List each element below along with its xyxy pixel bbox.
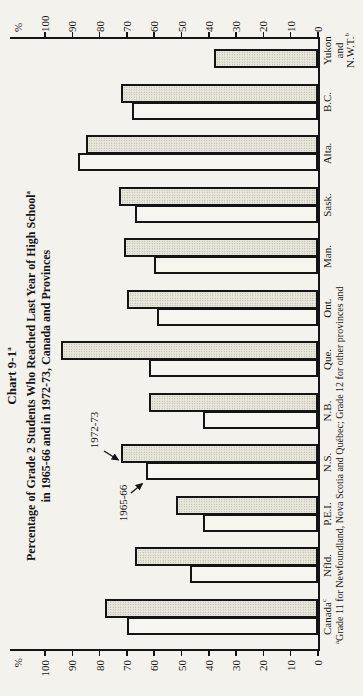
y-tick-right-40 — [208, 32, 210, 37]
chart-title-line1: Percentage of Grade 2 Students Who Reach… — [24, 116, 39, 636]
category-label-line: Yukon — [322, 11, 334, 91]
y-axis-left-unit-label: % — [12, 658, 24, 682]
y-tick-right-10 — [290, 32, 292, 37]
y-tick-right-50 — [181, 32, 183, 37]
y-tick-label-left-10: 10 — [285, 660, 297, 690]
bar-1965-66-5 — [149, 360, 318, 378]
y-tick-label-right-90: 90 — [66, 2, 78, 32]
bar-1972-73-6 — [127, 290, 318, 309]
chart-number: Chart 9-1a — [4, 116, 20, 636]
chart-number-sup: a — [5, 347, 13, 351]
y-tick-label-right-60: 60 — [148, 2, 160, 32]
chart-number-text: Chart 9-1 — [4, 351, 19, 405]
page: { "chart_data": { "type": "bar", "title"… — [0, 0, 363, 696]
bar-1972-73-1 — [135, 548, 318, 567]
y-tick-right-20 — [263, 32, 265, 37]
category-label-11: YukonandN.W.T.b — [322, 11, 357, 91]
y-tick-label-left-90: 90 — [66, 660, 78, 690]
footnote: aGrade 11 for Newfoundland, Nova Scotia … — [334, 104, 346, 644]
y-tick-label-right-20: 20 — [257, 2, 269, 32]
y-axis-left — [10, 649, 320, 651]
bar-1972-73-8 — [119, 187, 318, 206]
y-tick-label-right-70: 70 — [121, 2, 133, 32]
y-axis-right — [10, 37, 320, 39]
annotation-label-1972-73: 1972-73 — [88, 399, 100, 461]
y-tick-left-60 — [153, 651, 155, 656]
y-tick-label-right-80: 80 — [94, 2, 106, 32]
bar-1972-73-3 — [121, 445, 318, 464]
footnote-sup: a — [333, 641, 341, 644]
bar-1972-73-5 — [61, 342, 318, 361]
y-tick-label-right-50: 50 — [176, 2, 188, 32]
bar-1972-73-4 — [149, 393, 318, 412]
x-axis-baseline — [318, 37, 320, 651]
chart-title-line1-text: Percentage of Grade 2 Students Who Reach… — [24, 194, 38, 561]
y-tick-label-right-30: 30 — [230, 2, 242, 32]
y-tick-label-right-100: 100 — [39, 2, 51, 32]
annotation-label-1965-66: 1965-66 — [117, 472, 129, 534]
y-tick-left-20 — [263, 651, 265, 656]
bar-1965-66-3 — [146, 463, 318, 481]
y-tick-right-60 — [153, 32, 155, 37]
y-tick-label-left-80: 80 — [94, 660, 106, 690]
category-label-line: N.W.T.b — [345, 11, 357, 91]
y-tick-left-30 — [235, 651, 237, 656]
y-tick-left-100 — [44, 651, 46, 656]
bar-1965-66-7 — [154, 257, 318, 275]
y-tick-right-70 — [126, 32, 128, 37]
bar-1965-66-1 — [190, 566, 318, 584]
y-tick-label-left-30: 30 — [230, 660, 242, 690]
bar-1972-73-7 — [124, 239, 318, 258]
y-tick-left-40 — [208, 651, 210, 656]
y-tick-label-left-100: 100 — [39, 660, 51, 690]
bar-1965-66-8 — [135, 205, 318, 223]
y-tick-left-70 — [126, 651, 128, 656]
y-tick-right-90 — [72, 32, 74, 37]
footnote-text: Grade 11 for Newfoundland, Nova Scotia a… — [334, 286, 345, 641]
bar-1972-73-10 — [121, 84, 318, 103]
y-tick-label-left-60: 60 — [148, 660, 160, 690]
bar-1972-73-0 — [105, 599, 318, 618]
y-axis-right-unit-label: % — [12, 23, 24, 32]
y-tick-label-left-70: 70 — [121, 660, 133, 690]
bar-1972-73-9 — [86, 136, 318, 155]
y-tick-left-0 — [317, 651, 319, 656]
y-tick-label-right-40: 40 — [203, 2, 215, 32]
y-tick-right-0 — [317, 32, 319, 37]
bar-1965-66-6 — [157, 308, 318, 326]
y-tick-right-30 — [235, 32, 237, 37]
y-tick-label-left-0: 0 — [312, 660, 324, 690]
chart-title-block: Chart 9-1a Percentage of Grade 2 Student… — [4, 116, 54, 636]
bar-1972-73-2 — [176, 496, 318, 515]
arrow-1965-66 — [131, 484, 143, 494]
bar-1965-66-9 — [78, 154, 318, 172]
bar-1972-73-11 — [214, 50, 318, 69]
y-tick-right-80 — [99, 32, 101, 37]
y-tick-left-10 — [290, 651, 292, 656]
chart-title-line2: in 1965-66 and in 1972-73, Canada and Pr… — [39, 116, 54, 636]
arrow-1972-73 — [104, 451, 119, 460]
y-tick-right-100 — [44, 32, 46, 37]
y-tick-label-left-40: 40 — [203, 660, 215, 690]
bar-1965-66-2 — [203, 514, 318, 532]
bar-1965-66-10 — [132, 102, 318, 120]
y-tick-left-90 — [72, 651, 74, 656]
y-tick-left-50 — [181, 651, 183, 656]
chart-title-line1-sup: a — [24, 191, 32, 195]
y-tick-label-left-50: 50 — [176, 660, 188, 690]
rotated-chart: Chart 9-1a Percentage of Grade 2 Student… — [0, 0, 363, 696]
y-tick-label-left-20: 20 — [257, 660, 269, 690]
bar-1965-66-0 — [127, 617, 318, 635]
bar-1965-66-4 — [203, 411, 318, 429]
y-tick-label-right-10: 10 — [285, 2, 297, 32]
y-tick-left-80 — [99, 651, 101, 656]
